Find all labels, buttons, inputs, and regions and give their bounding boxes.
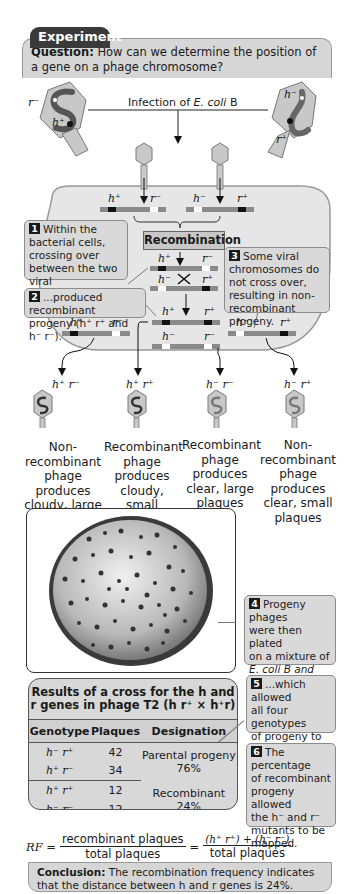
- gene-label: h⁺: [162, 305, 175, 318]
- gene-label: r⁺: [202, 273, 213, 286]
- chromosome-recombinant-top: [152, 320, 220, 325]
- gene-label: h⁻: [158, 273, 171, 286]
- callout-1: 1Within the bacterial cells, crossing ov…: [24, 220, 128, 280]
- chromosome-recombinant-bottom: [152, 344, 220, 349]
- progeny-description-4: Non- recombinant phage produces clear, s…: [256, 438, 340, 525]
- petri-dish-image: [27, 509, 234, 671]
- callout-2: 2...produced recombinant progeny (h⁺ r⁺ …: [24, 288, 146, 318]
- parent-left-r-label: r⁻: [28, 96, 39, 109]
- gene-label: r⁻: [202, 252, 213, 265]
- parent-right-h-label: h⁻: [284, 88, 297, 101]
- progeny-genotype-2: h⁺ r⁺: [126, 378, 153, 391]
- gene-label: r⁻: [150, 192, 161, 205]
- gene-label: r⁺: [280, 316, 291, 329]
- experiment-tab: Experiment: [30, 27, 110, 48]
- parent-left-h-label: h⁺: [52, 116, 65, 129]
- chromosome-cross-top: [150, 266, 218, 271]
- callout-3: 3Some viral chromosomes do not cross ove…: [224, 247, 330, 313]
- gene-label: h⁻: [193, 192, 206, 205]
- progeny-phage-4-icon: [286, 390, 304, 428]
- gene-label: h⁺: [108, 192, 121, 205]
- gene-label: h⁻: [162, 330, 175, 343]
- table-row: h⁺ r⁺ 12 Recombinant24%: [29, 781, 237, 800]
- table-row: h⁻ r⁺ 42 Parental progeny76%: [29, 743, 237, 762]
- progeny-genotype-1: h⁺ r⁻: [52, 378, 79, 391]
- chromosome-nonrecombinant-right: [228, 331, 296, 336]
- progeny-phage-3-icon: [208, 390, 226, 428]
- rf-formula: RF = recombinant plaques total plaques =…: [26, 832, 291, 861]
- progeny-genotype-4: h⁻ r⁺: [284, 378, 311, 391]
- results-table-title: Results of a cross for the h and r genes…: [29, 679, 237, 719]
- parent-right-r-label: r⁺: [276, 133, 287, 146]
- progeny-description-3: Recombinant phage produces clear, large …: [182, 438, 258, 511]
- chromosome-nonrecombinant-left: [62, 331, 130, 336]
- callout-6: 6The percentage of recombinant progeny a…: [246, 743, 336, 827]
- callout-4-pointer: [218, 622, 236, 623]
- gene-label: r⁺: [204, 305, 215, 318]
- callout-4: 4Progeny phages were then plated on a mi…: [244, 595, 336, 665]
- gene-label: h⁺: [158, 252, 171, 265]
- recombination-label: Recombination: [143, 231, 225, 250]
- chromosome-top-left: [100, 207, 166, 212]
- progeny-phage-2-icon: [128, 390, 146, 428]
- conclusion-box: Conclusion: The recombination frequency …: [28, 862, 332, 892]
- petri-dish-photo-frame: [26, 508, 236, 673]
- gene-label: r⁻: [204, 330, 215, 343]
- header-genotype: Genotype: [29, 720, 90, 743]
- chromosome-top-right: [186, 207, 254, 212]
- callout-5: 5...which allowed all four genotypes of …: [246, 675, 336, 733]
- results-table: Results of a cross for the h and r genes…: [28, 678, 238, 810]
- progeny-phage-1-icon: [34, 390, 52, 428]
- progeny-genotype-3: h⁻ r⁻: [206, 378, 233, 391]
- header-plaques: Plaques: [90, 720, 140, 743]
- results-data-table: Genotype Plaques Designation h⁻ r⁺ 42 Pa…: [29, 719, 237, 810]
- chromosome-cross-bottom: [150, 286, 218, 291]
- infection-label: Infection of E. coli B: [128, 96, 237, 109]
- gene-label: r⁺: [237, 192, 248, 205]
